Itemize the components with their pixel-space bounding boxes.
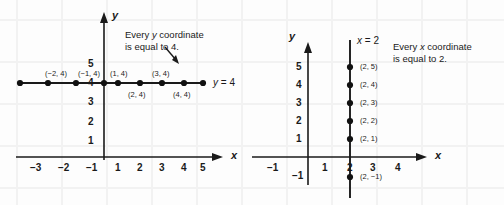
x-tick-label-neg1: −1	[267, 163, 278, 173]
y-tick-label-3: 3	[88, 97, 94, 107]
y-tick-label-1: 1	[88, 136, 94, 146]
y-axis-arrowhead	[304, 42, 312, 53]
graph-panel-left: y x 5 4 3 2 1 −3 −2 −1 1 2 3 4 5 (−2, 4)…	[0, 0, 252, 205]
point-label-3-4: (3, 4)	[152, 70, 170, 78]
point-label-2-3: (2, 3)	[360, 99, 378, 107]
x-tick-label-neg1: −1	[86, 163, 97, 173]
point-label-neg1-4: (−1, 4)	[78, 70, 100, 78]
y-tick-label-5: 5	[296, 62, 302, 72]
equation-label-x-equals-2: x = 2	[357, 36, 379, 46]
point-label-2-4: (2, 4)	[128, 91, 146, 99]
point-marker	[159, 80, 165, 86]
x-tick-label-4: 4	[181, 163, 187, 173]
annotation-note-x: Every x coordinate is equal to 2.	[393, 41, 472, 65]
x-tick-label-neg2: −2	[58, 163, 69, 173]
x-axis-arrowhead	[416, 153, 427, 161]
equation-remainder: = 4	[218, 77, 235, 88]
point-label-2-neg1: (2, −1)	[360, 173, 382, 181]
point-marker	[45, 80, 51, 86]
y-tick-label-3: 3	[296, 98, 302, 108]
point-label-2-1: (2, 1)	[360, 135, 378, 143]
point-marker	[73, 80, 79, 86]
x-tick-label-5: 5	[200, 163, 206, 173]
annotation-line2: is equal to 4.	[125, 41, 179, 52]
point-marker	[347, 174, 353, 180]
point-marker	[347, 64, 353, 70]
point-label-1-4: (1, 4)	[110, 70, 128, 78]
x-tick-label-neg3: −3	[30, 163, 41, 173]
y-tick-label-neg1: −1	[292, 171, 303, 181]
graph-panel-right: y x 5 4 3 2 1 −1 −1 1 2 3 4 (2, 5) (2, 4…	[252, 0, 504, 205]
x-axis-label: x	[231, 150, 237, 161]
annotation-note-y: Every y coordinate is equal to 4.	[125, 29, 204, 53]
equation-remainder: = 2	[362, 35, 379, 46]
point-marker	[347, 136, 353, 142]
annotation-line1-prefix: Every	[125, 29, 152, 40]
point-marker	[347, 118, 353, 124]
point-marker	[137, 80, 143, 86]
x-tick-label-1: 1	[115, 163, 121, 173]
y-tick-label-1: 1	[296, 134, 302, 144]
point-marker	[200, 80, 206, 86]
equation-label-y-equals-4: y = 4	[213, 78, 235, 88]
y-tick-label-4: 4	[88, 78, 94, 88]
y-axis-label: y	[289, 31, 295, 42]
y-axis-label: y	[112, 10, 118, 21]
x-tick-label-3: 3	[159, 163, 165, 173]
point-marker	[347, 82, 353, 88]
point-label-neg2-4: (−2, 4)	[45, 70, 67, 78]
y-tick-label-4: 4	[296, 80, 302, 90]
x-axis-arrowhead	[212, 153, 223, 161]
x-axis-label: x	[435, 150, 441, 161]
y-tick-label-5: 5	[88, 59, 94, 69]
point-marker	[181, 80, 187, 86]
annotation-line1-suffix: coordinate	[425, 41, 472, 52]
x-tick-label-1: 1	[322, 163, 328, 173]
y-tick-label-2: 2	[296, 116, 302, 126]
x-tick-label-4: 4	[395, 163, 401, 173]
point-marker	[101, 80, 107, 86]
point-label-4-4: (4, 4)	[173, 91, 191, 99]
x-tick-label-2: 2	[137, 163, 143, 173]
point-marker	[17, 80, 23, 86]
point-label-2-4: (2, 4)	[360, 81, 378, 89]
annotation-line1-suffix: coordinate	[157, 29, 204, 40]
annotation-line1-prefix: Every	[393, 41, 420, 52]
point-marker	[347, 100, 353, 106]
y-tick-label-2: 2	[88, 117, 94, 127]
point-marker	[115, 80, 121, 86]
x-tick-label-2: 2	[347, 163, 353, 173]
point-label-2-2: (2, 2)	[360, 117, 378, 125]
point-label-2-5: (2, 5)	[360, 63, 378, 71]
y-axis-arrowhead	[100, 12, 108, 23]
figure-canvas: y x 5 4 3 2 1 −3 −2 −1 1 2 3 4 5 (−2, 4)…	[0, 0, 504, 205]
annotation-line2: is equal to 2.	[393, 53, 447, 64]
